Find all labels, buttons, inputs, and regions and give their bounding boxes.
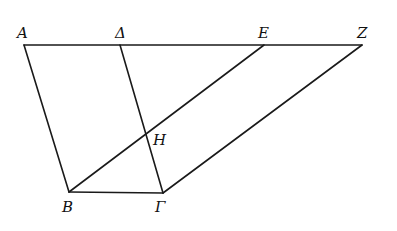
segment-GZ — [163, 45, 362, 193]
segment-DG — [120, 45, 163, 193]
label-Delta: Δ — [114, 24, 126, 42]
geometry-diagram: A Δ E Z H B Γ — [0, 0, 397, 231]
label-Z: Z — [356, 24, 368, 42]
label-A: A — [15, 24, 28, 42]
segment-BE — [69, 45, 264, 192]
label-B: B — [61, 198, 73, 216]
label-H: H — [152, 131, 167, 149]
label-E: E — [257, 24, 269, 42]
segment-AB — [24, 45, 69, 192]
segment-BG — [69, 192, 163, 193]
label-Gamma: Γ — [154, 198, 166, 216]
